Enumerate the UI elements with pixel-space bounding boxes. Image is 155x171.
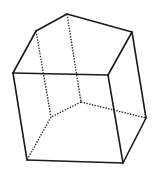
visible-edges bbox=[13, 14, 146, 163]
edge-DE bbox=[13, 73, 108, 75]
edge-CE bbox=[108, 32, 132, 75]
hidden-edge-AF bbox=[67, 14, 81, 102]
edge-EJ bbox=[108, 75, 123, 163]
edge-AC bbox=[67, 14, 132, 32]
hidden-edges bbox=[27, 14, 146, 160]
edge-IJ bbox=[27, 160, 123, 163]
edge-BD bbox=[13, 31, 36, 73]
polyhedron-diagram bbox=[0, 0, 155, 171]
edge-CH bbox=[132, 32, 146, 118]
edge-DI bbox=[13, 73, 27, 160]
hidden-edge-GI bbox=[27, 117, 51, 160]
edge-AB bbox=[36, 14, 67, 31]
edge-JH bbox=[123, 118, 146, 163]
hidden-edge-FG bbox=[51, 102, 81, 117]
